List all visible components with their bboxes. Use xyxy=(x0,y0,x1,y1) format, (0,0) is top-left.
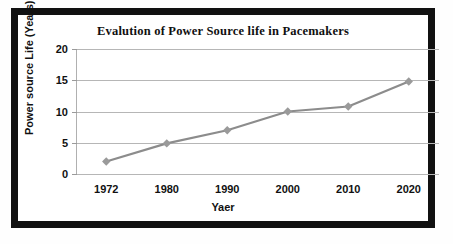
chart-title: Evalution of Power Source life in Pacema… xyxy=(18,24,428,39)
chart-frame: Evalution of Power Source life in Pacema… xyxy=(11,8,435,228)
figure-root: Evalution of Power Source life in Pacema… xyxy=(0,0,453,244)
y-axis-title: Power source Life (Years) xyxy=(23,3,35,135)
x-tick-label: 1980 xyxy=(155,183,179,195)
x-tick-label: 2000 xyxy=(276,183,300,195)
data-series-line xyxy=(76,49,439,174)
gridline xyxy=(76,174,439,175)
y-tick-label: 20 xyxy=(56,43,68,55)
y-tick-label: 5 xyxy=(62,137,68,149)
x-tick-label: 1990 xyxy=(215,183,239,195)
data-point-marker xyxy=(223,126,231,134)
data-point-marker xyxy=(102,157,110,165)
x-tick-label: 2010 xyxy=(336,183,360,195)
plot-area: 05101520 197219801990200020102020 xyxy=(76,49,439,174)
data-point-marker xyxy=(163,139,171,147)
series-polyline xyxy=(106,82,409,162)
data-point-marker xyxy=(344,102,352,110)
x-tick-label: 1972 xyxy=(94,183,118,195)
x-axis-title: Yaer xyxy=(18,201,428,213)
y-tick-label: 10 xyxy=(56,106,68,118)
y-tick-mark xyxy=(72,174,77,175)
y-tick-label: 15 xyxy=(56,74,68,86)
data-point-marker xyxy=(405,77,413,85)
y-tick-label: 0 xyxy=(62,168,68,180)
data-point-marker xyxy=(284,107,292,115)
chart-inner: Evalution of Power Source life in Pacema… xyxy=(18,15,428,221)
x-tick-label: 2020 xyxy=(397,183,421,195)
